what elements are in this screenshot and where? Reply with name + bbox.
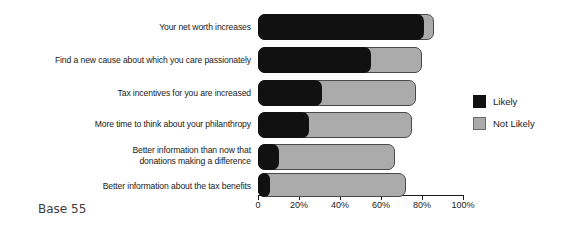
- axis-tick-label: 40%: [331, 200, 349, 210]
- axis-tick-label: 20%: [290, 200, 308, 210]
- bar-segment-likely: [258, 14, 424, 40]
- bar-segment-likely: [258, 144, 279, 170]
- bar-row: [258, 173, 463, 197]
- legend-label: Likely: [493, 96, 517, 107]
- category-label: Your net worth increases: [159, 22, 251, 33]
- category-label: Tax incentives for you are increased: [118, 88, 252, 99]
- axis-tick-label: 100%: [451, 200, 474, 210]
- legend-item-not-likely: Not Likely: [473, 117, 535, 130]
- legend-swatch-likely-icon: [473, 95, 486, 108]
- plot-area: [258, 8, 463, 195]
- axis-tick-label: 60%: [372, 200, 390, 210]
- legend-item-likely: Likely: [473, 95, 535, 108]
- bar-row: [258, 80, 463, 106]
- category-label: Better information about the tax benefit…: [103, 181, 251, 192]
- base-footnote: Base 55: [38, 202, 86, 216]
- bar-row: [258, 144, 463, 170]
- horizontal-stacked-bar-chart: Your net worth increases Find a new caus…: [0, 0, 565, 229]
- category-axis-labels: Your net worth increases Find a new caus…: [0, 0, 255, 195]
- legend-label: Not Likely: [493, 118, 535, 129]
- chart-legend: Likely Not Likely: [473, 95, 535, 139]
- bar-segment-likely: [258, 112, 309, 138]
- bar-row: [258, 47, 463, 73]
- legend-swatch-not-likely-icon: [473, 117, 486, 130]
- bar-segment-likely: [258, 47, 371, 73]
- bar-row: [258, 14, 463, 40]
- category-label: Better information than now that donatio…: [132, 145, 251, 166]
- bar-segment-likely: [258, 173, 270, 197]
- axis-tick-label: 0: [255, 200, 260, 210]
- category-label: More time to think about your philanthro…: [95, 119, 251, 130]
- bar-segment-not-likely: [258, 173, 406, 197]
- bar-segment-likely: [258, 80, 322, 106]
- category-label: Find a new cause about which you care pa…: [55, 55, 251, 66]
- bar-row: [258, 112, 463, 138]
- axis-tick-label: 80%: [413, 200, 431, 210]
- bar-segment-not-likely: [258, 144, 395, 170]
